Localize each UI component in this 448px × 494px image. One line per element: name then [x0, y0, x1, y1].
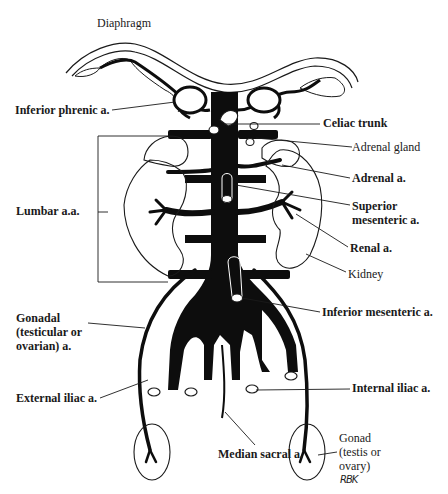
- label-adrenal-artery: Adrenal a.: [352, 172, 406, 185]
- aorta-diagram: Diaphragm Inferior phrenic a. Celiac tru…: [0, 0, 448, 494]
- label-adrenal-gland: Adrenal gland: [352, 141, 420, 154]
- label-median-sacral-artery: Median sacral a.: [218, 448, 303, 461]
- artist-signature: RBK: [340, 474, 357, 485]
- label-renal-artery: Renal a.: [350, 242, 392, 255]
- label-kidney: Kidney: [348, 268, 383, 281]
- label-gonad-3: ovary): [339, 460, 370, 473]
- label-superior-mesenteric-1: Superior: [352, 200, 397, 213]
- label-gonadal-1: Gonadal: [16, 312, 60, 325]
- label-gonad-2: (testis or: [339, 446, 381, 459]
- label-internal-iliac-artery: Internal iliac a.: [352, 382, 430, 395]
- label-gonad-1: Gonad: [339, 432, 371, 445]
- label-diaphragm: Diaphragm: [97, 17, 151, 30]
- median-sacral-artery: [222, 345, 224, 418]
- label-inferior-mesenteric-artery: Inferior mesenteric a.: [322, 306, 433, 319]
- label-gonadal-2: (testicular or: [16, 326, 82, 339]
- label-lumbar-arteries: Lumbar a.a.: [16, 205, 79, 218]
- diaphragm-lobules: [75, 58, 345, 112]
- superior-mesenteric-artery: [222, 174, 232, 203]
- label-inferior-phrenic-artery: Inferior phrenic a.: [15, 104, 110, 117]
- label-gonadal-3: ovarian) a.: [16, 340, 71, 353]
- label-celiac-trunk: Celiac trunk: [323, 117, 387, 130]
- label-external-iliac-artery: External iliac a.: [16, 392, 97, 405]
- label-superior-mesenteric-2: mesenteric a.: [352, 214, 419, 227]
